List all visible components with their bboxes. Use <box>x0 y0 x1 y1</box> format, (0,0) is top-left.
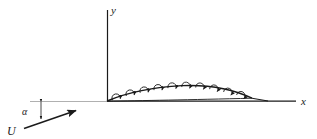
angle-of-attack-label: α <box>22 106 28 117</box>
freestream-velocity-arrow <box>24 111 76 129</box>
figure-container: α U y x <box>0 0 317 139</box>
coordinate-axes <box>108 10 297 102</box>
airfoil-vortex-diagram: α U y x <box>0 0 317 139</box>
freestream-velocity-label: U <box>7 124 17 138</box>
freestream-arrow-line <box>24 111 76 129</box>
airfoil-trailing-edge <box>252 98 268 101</box>
y-axis-label: y <box>110 4 116 16</box>
x-axis-label: x <box>300 95 306 107</box>
vortex-element <box>236 90 246 99</box>
